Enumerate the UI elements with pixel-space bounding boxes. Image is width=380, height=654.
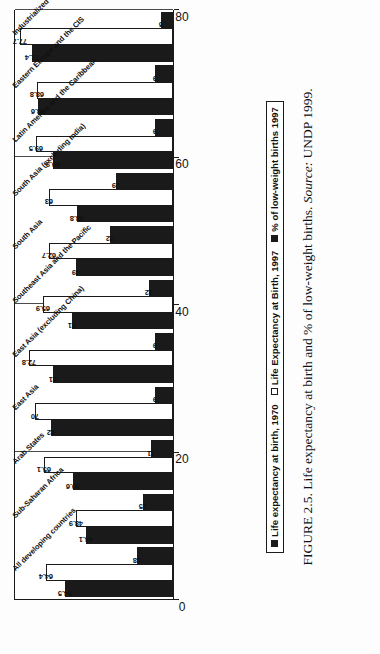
white-square-icon xyxy=(271,388,278,395)
source-value: UNDP 1999. xyxy=(300,88,315,158)
bar: 29 xyxy=(116,173,173,190)
bar-value-label: 54.5 xyxy=(58,589,72,598)
figure-container: 54.564.41844.148.91550.665.111627096172.… xyxy=(0,0,380,654)
figure-number: FIGURE 2.5. xyxy=(300,493,315,565)
bar: 49 xyxy=(76,259,173,276)
bar-value-label: 18 xyxy=(133,556,141,565)
figure-caption: FIGURE 2.5. Life expectancy at birth and… xyxy=(300,88,316,565)
bar-value-label: 69.5 xyxy=(29,144,43,153)
legend-box: Life expectancy at birth, 1970Life Expec… xyxy=(266,101,284,553)
bar: 72.8 xyxy=(29,350,173,367)
figure-page: 54.564.41844.148.91550.665.111627096172.… xyxy=(0,0,380,654)
plot-frame: 54.564.41844.148.91550.665.111627096172.… xyxy=(14,10,174,600)
bar: 9 xyxy=(155,65,173,82)
legend-item: Life Expectancy at Birth, 1997 xyxy=(269,251,280,396)
bar-value-label: 51 xyxy=(68,321,76,330)
bar-value-label: 48.8 xyxy=(70,214,84,223)
black-square-icon xyxy=(271,235,278,242)
bar-value-label: 15 xyxy=(139,502,147,511)
bar-value-label: 50.6 xyxy=(66,482,80,491)
bar: 9 xyxy=(155,119,173,136)
source-label: Source: xyxy=(300,162,315,203)
bar: 51 xyxy=(72,313,173,330)
bar: 48.8 xyxy=(77,206,173,223)
bar: 54.5 xyxy=(65,581,173,598)
figure-caption-text: Life expectancy at birth and % of low-we… xyxy=(300,207,315,490)
bar-value-label: 65.1 xyxy=(38,465,52,474)
legend-item: % of low-weight births 1997 xyxy=(269,107,280,242)
bar-value-label: 9 xyxy=(153,341,157,350)
bar-group: 54.564.418 xyxy=(15,545,173,599)
bar-value-label: 44.1 xyxy=(79,535,93,544)
bar-value-label: 29 xyxy=(112,181,120,190)
bar-value-label: 77.7 xyxy=(13,37,27,46)
bar: 50.6 xyxy=(73,473,173,490)
bar: 15 xyxy=(143,494,173,511)
bar: 70 xyxy=(35,403,173,420)
bar-value-label: 63 xyxy=(45,197,53,206)
chart-plot-area: 54.564.41844.148.91550.665.111627096172.… xyxy=(0,0,258,654)
bar: 44.1 xyxy=(86,527,173,544)
legend-label: Life expectancy at birth, 1970 xyxy=(269,404,280,537)
bar-value-label: 6 xyxy=(159,20,163,29)
bar: 62 xyxy=(51,420,173,437)
bar: 32 xyxy=(110,226,173,243)
bar: 12 xyxy=(149,280,173,297)
bar-value-label: 65.9 xyxy=(36,305,50,314)
chart-legend: Life expectancy at birth, 1970Life Expec… xyxy=(258,0,292,654)
bar-value-label: 12 xyxy=(145,288,153,297)
black-square-icon xyxy=(271,540,278,547)
bar-value-label: 9 xyxy=(153,74,157,83)
bar-value-label: 61 xyxy=(49,375,57,384)
bar-value-label: 72.8 xyxy=(22,358,36,367)
bar-value-label: 68.8 xyxy=(30,90,44,99)
axis-tick-label: 80 xyxy=(175,10,188,24)
bar: 9 xyxy=(155,387,173,404)
legend-label: Life Expectancy at Birth, 1997 xyxy=(269,251,280,386)
bar-value-label: 62 xyxy=(47,428,55,437)
legend-item: Life expectancy at birth, 1970 xyxy=(269,404,280,547)
bar-value-label: 70 xyxy=(31,412,39,421)
bar: 61 xyxy=(53,366,173,383)
bar-value-label: 32 xyxy=(106,234,114,243)
bar: 63 xyxy=(49,189,173,206)
bar: 64.4 xyxy=(46,564,173,581)
bar-value-label: 11 xyxy=(148,449,156,458)
bar-value-label: 9 xyxy=(153,127,157,136)
legend-label: % of low-weight births 1997 xyxy=(269,107,280,232)
bar-value-label: 49 xyxy=(72,268,80,277)
axis-tick-label: 20 xyxy=(175,453,188,467)
bar: 9 xyxy=(155,333,173,350)
axis-tick-label: 40 xyxy=(175,305,188,319)
axis-tick-label: 0 xyxy=(179,600,186,614)
axis-tick-label: 60 xyxy=(175,158,188,172)
bar-value-label: 64.4 xyxy=(39,572,53,581)
figure-caption-row: FIGURE 2.5. Life expectancy at birth and… xyxy=(292,0,346,654)
bar: 11 xyxy=(151,440,173,457)
bar-group: 6172.89 xyxy=(15,331,173,385)
bar: 77.7 xyxy=(20,28,173,45)
bar-value-label: 9 xyxy=(153,395,157,404)
bar-group: 48.86329 xyxy=(15,171,173,225)
bar: 6 xyxy=(161,12,173,29)
bar: 48.9 xyxy=(76,510,173,527)
bar: 18 xyxy=(137,547,173,564)
rotated-figure-stage: 54.564.41844.148.91550.665.111627096172.… xyxy=(0,0,380,654)
bar-groups: 54.564.41844.148.91550.665.111627096172.… xyxy=(15,10,173,599)
bar: 60.9 xyxy=(53,152,173,169)
bar-value-label: 48.9 xyxy=(70,519,84,528)
